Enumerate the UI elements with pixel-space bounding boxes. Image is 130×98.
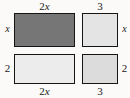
tile-bottom-left xyxy=(14,54,75,84)
label-left-height-top: x xyxy=(2,24,13,34)
tile-top-right xyxy=(82,13,118,47)
label-bottom-width-right: 3 xyxy=(82,86,118,97)
label-top-width-right: 3 xyxy=(82,1,118,12)
label-right-height-bottom: 2 xyxy=(119,63,130,74)
label-left-height-bottom: 2 xyxy=(2,63,13,74)
label-right-height-top: x xyxy=(119,24,130,34)
label-bottom-width-left: 2x xyxy=(14,86,75,97)
tile-bottom-right xyxy=(82,54,118,84)
label-top-width-left-variable: x xyxy=(45,0,50,12)
label-top-width-left: 2x xyxy=(14,1,75,12)
tile-top-left xyxy=(14,13,75,47)
area-model-figure: 2x 3 x 2 x 2 2x 3 xyxy=(0,0,130,98)
label-bottom-width-left-variable: x xyxy=(45,85,50,97)
